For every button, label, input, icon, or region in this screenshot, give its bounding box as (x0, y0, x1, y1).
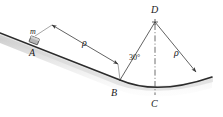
radius-line-db (120, 22, 155, 80)
label-point-b: B (111, 88, 117, 98)
label-radius-right: ρ (174, 48, 179, 58)
radius-lines-from-d (120, 22, 196, 80)
block-mass-m (29, 36, 40, 45)
label-radius-left: ρ (82, 38, 87, 48)
figure-canvas (0, 0, 223, 117)
physics-figure: m A B C D ρ ρ 30° (0, 0, 223, 117)
label-angle-30: 30° (129, 54, 140, 62)
incline-surface-line (0, 33, 120, 80)
label-point-d: D (151, 5, 158, 15)
label-mass-m: m (30, 28, 36, 36)
label-point-a: A (29, 48, 35, 58)
label-point-c: C (151, 99, 158, 109)
